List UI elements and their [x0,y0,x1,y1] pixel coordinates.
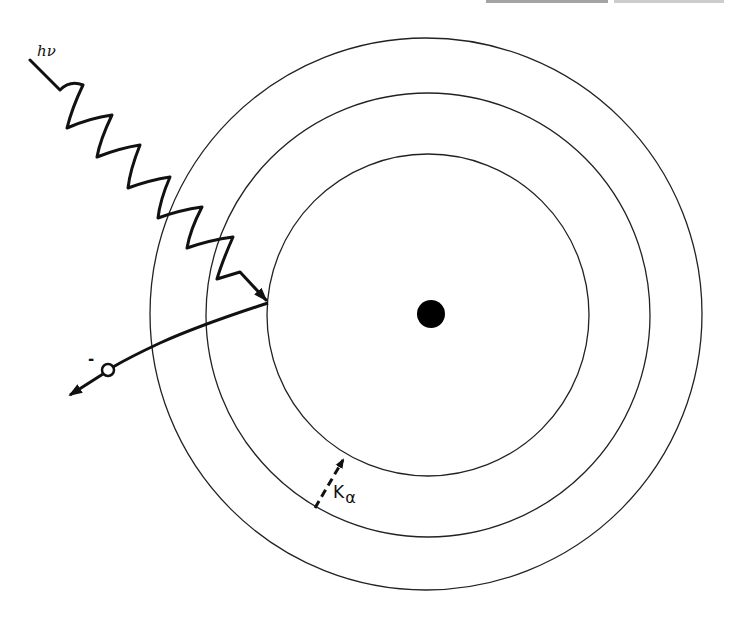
k-alpha-sub: α [345,488,356,507]
diagram-svg [0,0,729,618]
k-alpha-main: K [333,482,344,502]
atom-diagram: hν - Kα [0,0,729,618]
clipped-header-text [486,0,726,6]
electron-exit-arrow [70,374,103,395]
electron-charge-label: - [88,352,94,367]
photon-wave-arrow [30,60,266,300]
photon-label: hν [37,44,56,59]
k-alpha-label: Kα [333,484,356,501]
nucleus [417,300,445,328]
header-text-fragment [486,0,608,3]
header-text-fragment [614,0,724,3]
electron-trajectory [113,303,268,367]
electron-icon [102,364,114,376]
